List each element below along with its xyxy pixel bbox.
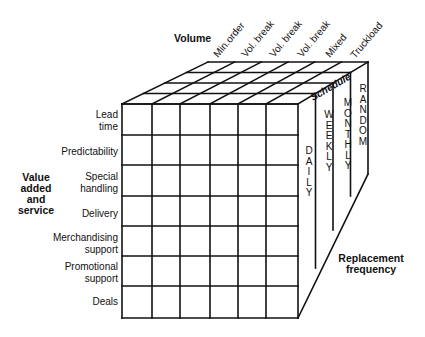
- schedule-letter: D: [359, 115, 366, 126]
- row-label-line: time: [99, 121, 118, 132]
- schedule-letter: N: [359, 104, 366, 115]
- schedule-letter: H: [344, 139, 351, 150]
- schedule-letter: A: [306, 156, 313, 167]
- schedule-letter: M: [344, 97, 352, 108]
- replacement-frequency-title: Replacement frequency: [338, 252, 404, 275]
- schedule-letter: I: [308, 166, 311, 177]
- schedule-letter: L: [306, 177, 312, 188]
- row-label-line: handling: [80, 183, 118, 194]
- volume-label: Mixed: [323, 32, 349, 60]
- title-line: frequency: [346, 263, 396, 275]
- schedule-letter: L: [345, 150, 351, 161]
- schedule-letter: E: [326, 130, 333, 141]
- schedule-letter: O: [344, 108, 352, 119]
- volume-label: Truckload: [348, 20, 384, 60]
- schedule-letter: K: [326, 141, 333, 152]
- cube-svg: Volume Min.order Vol. break Vol. break V…: [0, 0, 425, 337]
- row-label-line: support: [85, 273, 119, 284]
- schedule-letter: M: [359, 136, 367, 147]
- schedule-letter: Y: [326, 162, 333, 173]
- value-added-labels: Lead time Predictability Special handlin…: [53, 109, 118, 307]
- schedule-letter: Y: [306, 187, 313, 198]
- volume-labels: Min.order Vol. break Vol. break Vol. bre…: [211, 17, 384, 60]
- schedule-letter: N: [344, 118, 351, 129]
- schedule-letter: E: [326, 120, 333, 131]
- row-label-line: support: [85, 244, 119, 255]
- front-face-grid: [122, 104, 298, 318]
- row-label-line: Predictability: [61, 146, 118, 157]
- schedule-letter: L: [326, 151, 332, 162]
- schedule-letter: Y: [345, 160, 352, 171]
- row-label-line: Deals: [92, 296, 118, 307]
- schedule-letter: D: [305, 145, 312, 156]
- schedule-letter: W: [324, 109, 334, 120]
- schedule-letter: A: [360, 94, 367, 105]
- schedule-letter: R: [359, 83, 366, 94]
- row-label-line: Merchandising: [53, 232, 118, 243]
- value-added-axis-title: Value added and service: [18, 171, 54, 216]
- volume-axis-title: Volume: [174, 32, 211, 44]
- row-label-line: Delivery: [82, 208, 118, 219]
- schedule-letter: O: [359, 125, 367, 136]
- cube-diagram: Volume Min.order Vol. break Vol. break V…: [0, 0, 425, 337]
- row-label-line: Lead: [96, 109, 118, 120]
- title-line: service: [18, 204, 54, 216]
- schedule-letter: T: [345, 129, 351, 140]
- row-label-line: Promotional: [65, 261, 118, 272]
- row-label-line: Special: [85, 171, 118, 182]
